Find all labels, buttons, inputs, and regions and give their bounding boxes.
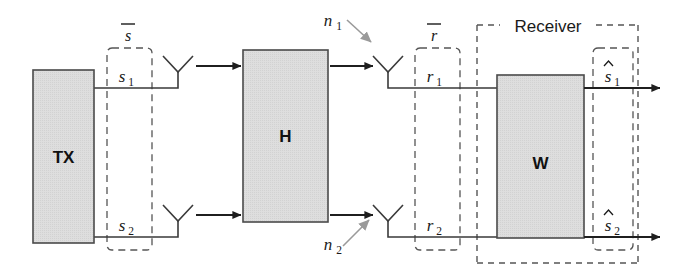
label-n2-base: n [324,235,333,254]
label-n1: n 1 [324,11,342,32]
label-s-bar: s [121,24,135,44]
label-s2-hat-sub: 2 [614,225,620,237]
block-h-label: H [279,127,291,146]
label-n1-sub: 1 [336,20,342,32]
noise-arrow-2 [343,220,369,246]
label-r1: r 1 [427,67,442,88]
label-receiver: Receiver [514,17,581,36]
label-n2-sub: 2 [336,244,342,256]
antenna-icon-tx-1 [163,56,193,72]
label-s1: s 1 [119,67,134,88]
label-s2: s 2 [119,216,134,237]
antenna-icon-rx-2 [373,205,403,221]
label-r2-base: r [427,216,434,235]
label-r1-base: r [427,67,434,86]
label-s2-hat-base: s [605,216,612,235]
label-s1-sub: 1 [128,76,134,88]
noise-arrow-1 [347,20,371,42]
label-s2-base: s [119,216,126,235]
dashed-group-s-hat [593,48,633,250]
label-s-bar-text: s [125,27,131,44]
mimo-block-diagram: TX H W [0,0,686,278]
label-r-bar: r [427,24,441,44]
antenna-icon-rx-1 [373,56,403,72]
block-w-label: W [532,154,549,173]
label-r2-sub: 2 [436,225,442,237]
label-s2-hat-accent [604,210,613,215]
diagram-canvas: TX H W [0,0,686,278]
block-tx: TX [33,70,94,243]
rx-input-line-2 [388,221,497,237]
label-n1-base: n [324,11,333,30]
label-s1-hat: s 1 [604,61,620,88]
rx-input-line-1 [388,72,497,88]
label-s2-hat: s 2 [604,210,620,237]
label-n2: n 2 [324,235,342,256]
block-tx-label: TX [53,148,75,167]
antenna-icon-tx-2 [163,205,193,221]
block-w: W [497,75,584,238]
block-h: H [243,50,328,222]
label-s1-hat-sub: 1 [614,76,620,88]
label-s1-hat-accent [604,61,613,66]
label-s2-sub: 2 [128,225,134,237]
label-r-bar-text: r [431,27,438,44]
label-r2: r 2 [427,216,442,237]
label-s1-hat-base: s [605,67,612,86]
label-s1-base: s [119,67,126,86]
label-r1-sub: 1 [436,76,442,88]
